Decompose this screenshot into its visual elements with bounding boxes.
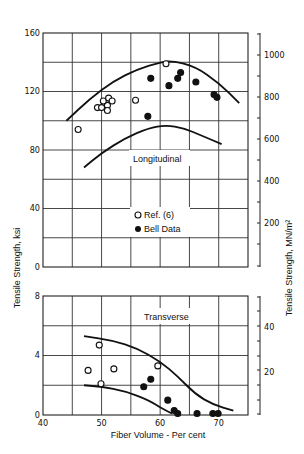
data-point-ref	[96, 342, 102, 348]
data-point-bell	[148, 376, 154, 382]
y-right-tick-800: 800	[264, 92, 279, 102]
bound-curve-lower	[84, 385, 172, 413]
filled-circle-icon	[135, 226, 141, 232]
y-tick-120: 120	[25, 86, 40, 96]
data-point-bell	[166, 83, 172, 89]
x-axis-label: Fiber Volume - Per cent	[111, 430, 206, 440]
y-right-tick-20: 20	[264, 367, 274, 377]
y-axis-label-right: Tensile Strength, MN/m²	[284, 220, 294, 317]
data-point-ref	[75, 127, 81, 133]
data-point-ref	[111, 366, 117, 372]
transverse-label-box: Transverse	[140, 308, 191, 324]
y-axis-label-left: Tensile Strength, ksi	[12, 228, 22, 309]
data-point-bell	[178, 69, 184, 75]
data-point-ref	[104, 108, 110, 114]
data-point-ref	[163, 61, 169, 67]
data-point-bell	[215, 411, 221, 417]
y-right-tick-1000: 1000	[264, 50, 285, 60]
transverse-label: Transverse	[144, 312, 189, 322]
data-point-bell	[194, 411, 200, 417]
data-point-ref	[85, 367, 91, 373]
y-tick-80: 80	[30, 145, 40, 155]
y-tick-160: 160	[25, 28, 40, 38]
y-tick-4: 4	[35, 350, 40, 360]
data-point-bell	[165, 397, 171, 403]
data-point-ref	[155, 363, 161, 369]
x-tick-70: 70	[214, 418, 224, 428]
x-tick-50: 50	[96, 418, 106, 428]
legend: Ref. (6) Bell Data	[130, 207, 190, 237]
data-point-bell	[148, 75, 154, 81]
y-right-tick-200: 200	[264, 218, 279, 228]
open-circle-icon	[135, 212, 141, 218]
data-point-bell	[145, 113, 151, 119]
longitudinal-label-box: Longitudinal	[129, 150, 190, 166]
legend-bell: Bell Data	[144, 224, 181, 234]
data-point-ref	[133, 97, 139, 103]
data-point-ref	[109, 98, 115, 104]
data-point-bell	[175, 75, 181, 81]
y-tick-40: 40	[30, 203, 40, 213]
y-tick-8: 8	[35, 291, 40, 301]
y-tick-0: 0	[35, 262, 40, 272]
data-point-bell	[193, 79, 199, 85]
x-tick-40: 40	[38, 418, 48, 428]
y-right-tick-400: 400	[264, 176, 279, 186]
y-right-tick-40: 40	[264, 322, 274, 332]
longitudinal-label: Longitudinal	[133, 154, 182, 164]
data-point-bell	[214, 94, 220, 100]
data-point-bell	[175, 411, 181, 417]
legend-ref: Ref. (6)	[144, 210, 174, 220]
figure: 160 120 80 40 0 1000 800 600 400 200 Lon…	[0, 0, 304, 454]
data-point-ref	[98, 381, 104, 387]
data-point-bell	[141, 384, 147, 390]
bound-curve-upper	[84, 336, 233, 410]
data-point-ref	[99, 105, 105, 111]
x-tick-60: 60	[155, 418, 165, 428]
y-right-tick-600: 600	[264, 134, 279, 144]
